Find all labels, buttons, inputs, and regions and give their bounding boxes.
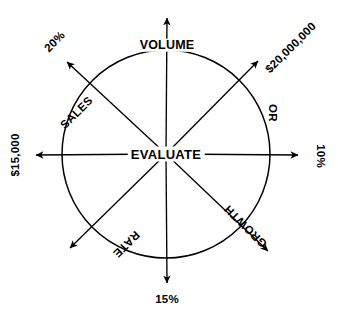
spoke-line-northeast [166,61,258,154]
or-spoke-label: OR [266,104,278,122]
volume-label: VOLUME [137,39,198,52]
diagram-canvas: VOLUME EVALUATE VOLUME $20,000,000 20% $… [0,0,338,314]
value-15-percent-label: 15% [155,294,179,306]
spoke-line-southwest [70,154,166,248]
spoke-line-south [166,154,167,283]
evaluate-center-label: EVALUATE [128,147,205,162]
value-10-percent-label: 10% [314,144,326,168]
value-15000-label: $15,000 [10,134,22,177]
